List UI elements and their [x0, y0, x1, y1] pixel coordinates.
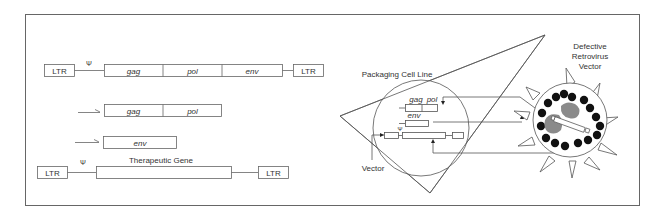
gene-env: env [246, 67, 260, 76]
env-construct [75, 137, 177, 149]
virion-label-line1: Defective [573, 42, 607, 51]
virion-label-line3: Vector [579, 62, 602, 71]
gene-pol: pol [186, 67, 198, 76]
vector-label: Vector [362, 164, 385, 173]
ltr-label: LTR [45, 169, 60, 178]
therapeutic-vector-construct [38, 167, 289, 179]
psi-label: Ψ [397, 126, 402, 132]
defective-retrovirus-virion [514, 68, 618, 178]
ltr-label: LTR [301, 67, 316, 76]
therapeutic-gene-label: Therapeutic Gene [129, 156, 194, 165]
gene-pol: pol [426, 95, 438, 104]
packaging-cell-line-label: Packaging Cell Line [362, 70, 433, 79]
retroviral-vector-diagram: LTR Ψ gag pol env LTR gag pol env LTR Ψ … [0, 0, 664, 216]
gene-env: env [408, 111, 422, 120]
gene-gag: gag [127, 67, 141, 76]
gene-gag: gag [127, 107, 141, 116]
virion-label-line2: Retrovirus [572, 52, 608, 61]
psi-label: Ψ [86, 60, 92, 67]
gene-pol: pol [186, 107, 198, 116]
gene-env: env [134, 139, 148, 148]
ltr-label: LTR [52, 67, 67, 76]
gag-pol-construct [78, 105, 222, 117]
ltr-label: LTR [266, 169, 281, 178]
gene-gag: gag [409, 95, 423, 104]
psi-label: Ψ [80, 159, 86, 166]
